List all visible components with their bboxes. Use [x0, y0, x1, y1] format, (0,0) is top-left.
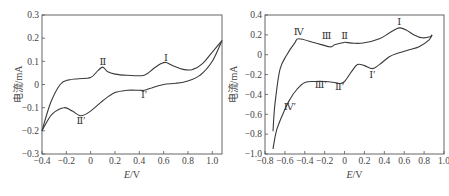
- anodic-curve: [273, 28, 432, 131]
- x-tick-label: 0.2: [109, 156, 121, 166]
- peak-label: Ⅱ: [341, 30, 348, 41]
- peak-label: Ⅰ′: [141, 89, 147, 100]
- peak-label: Ⅱ: [99, 56, 106, 67]
- cathodic-curve: [273, 35, 432, 149]
- cathodic-curve: [42, 41, 222, 131]
- x-tick-label: 0: [342, 156, 347, 166]
- y-tick-label: 0.3: [27, 10, 39, 20]
- y-tick-label: 0: [34, 80, 39, 90]
- y-tick-label: −0.4: [245, 90, 262, 100]
- x-tick-label: −0.2: [316, 156, 333, 166]
- x-tick-label: 0.2: [359, 156, 371, 166]
- x-tick-label: −0.4: [296, 156, 313, 166]
- x-tick-label: 0.8: [182, 156, 194, 166]
- y-tick-label: 0: [257, 50, 262, 60]
- peak-label: Ⅱ′: [76, 115, 85, 126]
- peak-label: Ⅳ: [294, 26, 305, 37]
- x-tick-label: 0: [88, 156, 93, 166]
- y-tick-label: −0.8: [245, 129, 262, 139]
- peak-label: Ⅲ′: [315, 79, 327, 90]
- peak-label: Ⅰ: [397, 16, 401, 27]
- y-tick-label: −0.1: [22, 103, 39, 113]
- y-tick-label: 0.2: [27, 33, 39, 43]
- y-tick-label: −0.6: [245, 110, 262, 120]
- anodic-curve: [42, 41, 222, 131]
- peak-label: Ⅱ′: [335, 81, 344, 92]
- x-tick-label: −0.2: [58, 156, 75, 166]
- cyclic-voltammetry-figure: −0.4−0.200.20.40.60.81.00.30.20.10−0.1−0…: [0, 0, 449, 196]
- left-cv-chart: −0.4−0.200.20.40.60.81.00.30.20.10−0.1−0…: [12, 10, 222, 180]
- x-tick-label: 0.6: [398, 156, 410, 166]
- x-tick-label: 0.6: [158, 156, 170, 166]
- plot-frame: [42, 15, 222, 154]
- x-axis-title: E/V: [345, 169, 363, 180]
- peak-label: Ⅳ′: [284, 101, 296, 112]
- x-tick-label: −0.6: [276, 156, 293, 166]
- x-tick-label: 1.0: [206, 156, 218, 166]
- x-tick-label: 0.8: [418, 156, 430, 166]
- x-axis-title: E/V: [123, 169, 141, 180]
- y-tick-label: 0.4: [250, 10, 262, 20]
- y-tick-label: −1.0: [245, 149, 262, 159]
- y-axis-title: 电流/mA: [12, 65, 24, 104]
- y-tick-label: 0.2: [250, 30, 262, 40]
- peak-label: Ⅰ: [164, 52, 168, 63]
- x-tick-label: 0.4: [133, 156, 145, 166]
- y-tick-label: −0.2: [245, 70, 262, 80]
- peak-label: Ⅰ′: [369, 69, 375, 80]
- peak-label: Ⅲ: [322, 30, 332, 41]
- right-cv-chart: −0.8−0.6−0.4−0.200.20.40.60.81.00.40.20−…: [227, 10, 449, 180]
- y-tick-label: −0.3: [22, 149, 39, 159]
- x-tick-label: 1.0: [438, 156, 449, 166]
- y-axis-title: 电流/mA: [227, 65, 239, 104]
- y-tick-label: 0.1: [27, 57, 39, 67]
- x-tick-label: 0.4: [378, 156, 390, 166]
- y-tick-label: −0.2: [22, 126, 39, 136]
